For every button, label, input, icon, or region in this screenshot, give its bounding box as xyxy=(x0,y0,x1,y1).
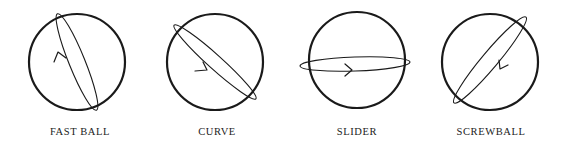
screwball-label: SCREWBALL xyxy=(431,126,551,137)
arrow-right-icon xyxy=(345,64,352,76)
slider-label: SLIDER xyxy=(297,126,417,137)
fast-ball-label: FAST BALL xyxy=(20,126,140,137)
ball-outline xyxy=(442,14,538,110)
spin-orbit xyxy=(169,20,260,104)
pitch-diagrams xyxy=(0,0,561,147)
ball-outline xyxy=(29,14,125,110)
spin-orbit xyxy=(300,55,410,73)
curve-diagram xyxy=(167,14,263,110)
arrow-down-left-icon xyxy=(499,60,508,69)
fast-ball-diagram xyxy=(29,11,125,113)
ball-outline xyxy=(167,14,263,110)
spin-orbit xyxy=(50,11,104,113)
spin-orbit xyxy=(448,12,532,108)
curve-label: CURVE xyxy=(157,126,277,137)
arrow-down-right-icon xyxy=(195,62,207,71)
screwball-diagram xyxy=(442,12,538,110)
ball-outline xyxy=(309,12,405,108)
slider-diagram xyxy=(300,12,410,108)
arrow-up-icon xyxy=(54,52,66,62)
